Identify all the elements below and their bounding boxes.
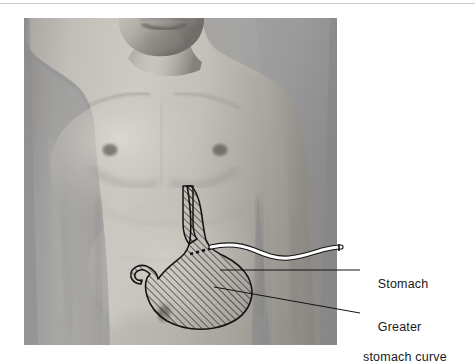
torso-photograph <box>24 18 337 345</box>
torso-photograph-image <box>24 18 337 345</box>
label-greater-stomach-curve: Greater stomach curve <box>363 305 447 363</box>
label-greater-stomach-curve-line2: stomach curve <box>363 350 447 363</box>
label-stomach-text: Stomach <box>378 277 429 291</box>
top-divider-rule <box>0 3 475 4</box>
figure-root: Stomach Greater stomach curve <box>0 0 475 363</box>
label-stomach: Stomach <box>363 262 428 307</box>
label-greater-stomach-curve-line1: Greater <box>378 320 422 334</box>
